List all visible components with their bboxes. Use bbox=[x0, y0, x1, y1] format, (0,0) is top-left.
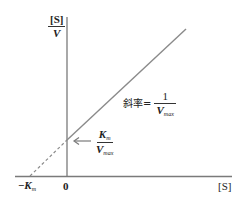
origin-label: 0 bbox=[63, 181, 69, 192]
slope-den-sub: max bbox=[164, 111, 174, 117]
left-arrow-icon bbox=[74, 138, 91, 145]
x-axis-label: [S] bbox=[218, 181, 231, 192]
y-axis-label: [S] V bbox=[48, 14, 65, 39]
intercept-den-sub: max bbox=[103, 150, 113, 156]
neg-km-k: K bbox=[24, 179, 31, 191]
neg-km-label: −Km bbox=[18, 180, 36, 192]
intercept-num-sub: m bbox=[106, 135, 110, 141]
slope-prefix: 斜率= bbox=[123, 99, 151, 109]
y-axis-label-numerator: [S] bbox=[48, 14, 65, 27]
y-axis-label-denominator: V bbox=[53, 27, 60, 39]
slope-fraction: 1 Vmax bbox=[154, 91, 176, 117]
slope-den-v: V bbox=[156, 104, 163, 116]
neg-km-sub: m bbox=[32, 186, 36, 192]
plot-canvas bbox=[0, 0, 240, 200]
extrapolation-line bbox=[30, 140, 67, 176]
slope-numerator: 1 bbox=[154, 91, 176, 104]
fit-line bbox=[67, 29, 186, 140]
y-intercept-annotation: Km Vmax bbox=[96, 129, 113, 156]
slope-annotation: 斜率= 1 Vmax bbox=[123, 91, 176, 117]
